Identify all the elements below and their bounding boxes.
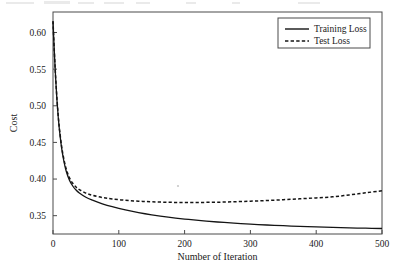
scan-speck <box>177 185 179 187</box>
x-tick-label: 200 <box>177 239 192 249</box>
y-tick-label: 0.40 <box>29 174 46 184</box>
x-axis-tick-labels: 0100200300400500 <box>51 239 390 249</box>
x-tick-label: 300 <box>243 239 258 249</box>
loss-curve-chart: 0100200300400500 0.350.400.450.500.550.6… <box>0 0 397 279</box>
x-axis-title: Number of Iteration <box>178 251 258 262</box>
x-tick-label: 0 <box>51 239 56 249</box>
figure-container: 0100200300400500 0.350.400.450.500.550.6… <box>0 0 397 279</box>
legend-label-training-loss: Training Loss <box>314 24 367 34</box>
y-tick-label: 0.35 <box>29 211 46 221</box>
y-tick-label: 0.50 <box>29 101 46 111</box>
y-axis-title: Cost <box>8 114 19 133</box>
x-axis-ticks <box>53 230 382 234</box>
x-tick-label: 500 <box>375 239 390 249</box>
y-tick-label: 0.60 <box>29 28 46 38</box>
x-tick-label: 100 <box>112 239 127 249</box>
y-tick-label: 0.55 <box>29 65 46 75</box>
legend-label-test-loss: Test Loss <box>314 36 350 46</box>
y-tick-label: 0.45 <box>29 138 46 148</box>
x-tick-label: 400 <box>309 239 324 249</box>
chart-legend: Training LossTest Loss <box>278 18 370 48</box>
y-axis-tick-labels: 0.350.400.450.500.550.60 <box>29 28 46 221</box>
data-series-group <box>53 21 382 228</box>
